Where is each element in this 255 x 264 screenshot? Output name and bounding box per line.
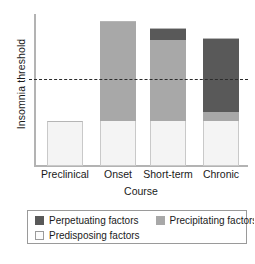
bar-short-term: [150, 1, 186, 166]
legend-swatch-icon: [35, 231, 44, 240]
bar-segment-perpetuating-factors: [203, 38, 239, 112]
legend-item-perpetuating-factors[interactable]: Perpetuating factors: [35, 215, 139, 226]
bar-segment-predisposing-factors: [100, 121, 136, 166]
bar-segment-predisposing-factors: [203, 121, 239, 166]
bar-onset: [100, 1, 136, 166]
legend-label: Precipitating factors: [170, 215, 255, 226]
bar-segment-precipitating-factors: [203, 112, 239, 121]
plot-area: Insomnia threshold PreclinicalOnsetShort…: [0, 0, 254, 200]
legend-item-precipitating-factors[interactable]: Precipitating factors: [156, 215, 255, 226]
category-axis-labels: PreclinicalOnsetShort-termChronic: [0, 168, 254, 184]
chart-legend: Perpetuating factorsPrecipitating factor…: [27, 210, 247, 244]
bar-segment-precipitating-factors: [100, 21, 136, 121]
legend-item-predisposing-factors[interactable]: Predisposing factors: [35, 230, 140, 241]
legend-label: Predisposing factors: [49, 230, 140, 241]
legend-label: Perpetuating factors: [49, 215, 139, 226]
insomnia-threshold-chart: Insomnia threshold PreclinicalOnsetShort…: [0, 0, 254, 264]
bar-segment-predisposing-factors: [150, 121, 186, 166]
category-label-chronic: Chronic: [176, 168, 254, 180]
legend-swatch-icon: [35, 216, 44, 225]
bar-preclinical: [47, 1, 83, 166]
insomnia-threshold-line: [29, 79, 248, 80]
bar-segment-predisposing-factors: [47, 121, 83, 166]
bar-segment-perpetuating-factors: [150, 28, 186, 40]
bar-segment-precipitating-factors: [150, 40, 186, 121]
legend-swatch-icon: [156, 216, 165, 225]
bar-group: [0, 0, 254, 166]
bar-chronic: [203, 1, 239, 166]
x-axis-title: Course: [34, 185, 248, 197]
legend-row-secondary: Predisposing factors: [28, 228, 246, 243]
legend-row-primary: Perpetuating factorsPrecipitating factor…: [28, 213, 246, 228]
